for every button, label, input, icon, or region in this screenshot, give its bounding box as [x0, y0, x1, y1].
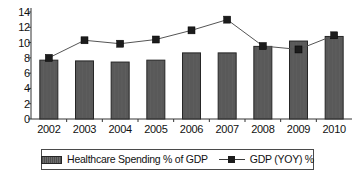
line-marker	[45, 54, 52, 61]
bar	[183, 53, 201, 119]
x-axis-tick-labels: 200220032004200520062007200820092010	[0, 122, 359, 142]
line-marker	[295, 46, 302, 53]
line-marker	[117, 40, 124, 47]
x-tick-label: 2007	[216, 122, 239, 136]
line-marker	[81, 37, 88, 44]
line-marker	[259, 43, 266, 50]
bar	[218, 53, 236, 119]
plot-area: 02468101214	[0, 0, 359, 126]
line-marker	[224, 16, 231, 23]
bar	[254, 46, 272, 119]
line-marker-swatch-icon	[219, 155, 245, 164]
bar	[111, 62, 129, 119]
bar-swatch-icon	[41, 156, 62, 164]
x-tick-label: 2006	[180, 122, 203, 136]
bar	[40, 60, 58, 119]
x-tick-label: 2004	[109, 122, 132, 136]
line-marker	[331, 32, 338, 39]
x-tick-label: 2008	[251, 122, 274, 136]
x-tick-label: 2003	[73, 122, 96, 136]
legend-item-gdp-yoy: GDP (YOY) %	[219, 154, 314, 165]
bar	[147, 60, 165, 119]
line-marker	[188, 27, 195, 34]
legend-item-healthcare-spending: Healthcare Spending % of GDP	[41, 154, 208, 165]
x-tick-label: 2010	[323, 122, 346, 136]
legend-label-healthcare-spending: Healthcare Spending % of GDP	[67, 154, 208, 165]
legend-label-gdp-yoy: GDP (YOY) %	[250, 154, 314, 165]
bar	[76, 61, 94, 119]
x-tick-label: 2002	[37, 122, 60, 136]
chart-container: 02468101214 2002200320042005200620072008…	[0, 0, 359, 179]
chart-canvas	[0, 0, 359, 126]
line-marker	[152, 36, 159, 43]
bar	[325, 36, 343, 119]
x-tick-label: 2005	[144, 122, 167, 136]
chart-legend: Healthcare Spending % of GDP GDP (YOY) %	[41, 149, 314, 170]
x-tick-label: 2009	[287, 122, 310, 136]
